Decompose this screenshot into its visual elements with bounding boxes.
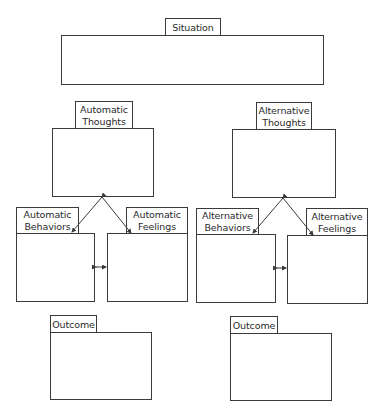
- automatic-outcome-label: Outcome: [50, 315, 97, 333]
- automatic-feelings-box[interactable]: [107, 233, 188, 302]
- alternative-thoughts-label: Alternative Thoughts: [256, 102, 312, 130]
- automatic-behaviors-line2: Behaviors: [24, 221, 70, 233]
- situation-label: Situation: [165, 18, 221, 36]
- automatic-feelings-line1: Automatic: [133, 209, 181, 221]
- automatic-branch-arrows: [72, 197, 131, 233]
- alternative-branch-arrows: [253, 198, 313, 235]
- alternative-outcome-box[interactable]: [230, 333, 332, 401]
- alternative-feelings-box[interactable]: [287, 235, 368, 304]
- automatic-thoughts-line2: Thoughts: [82, 116, 126, 128]
- alternative-thoughts-line2: Thoughts: [262, 117, 306, 129]
- alternative-behaviors-line2: Behaviors: [204, 222, 250, 234]
- alternative-thoughts-line1: Alternative: [258, 105, 309, 117]
- alternative-behaviors-box[interactable]: [196, 234, 276, 303]
- automatic-feelings-line2: Feelings: [138, 221, 176, 233]
- automatic-feelings-label: Automatic Feelings: [126, 207, 188, 234]
- situation-label-text: Situation: [172, 22, 214, 34]
- automatic-behaviors-line1: Automatic: [24, 209, 72, 221]
- automatic-behaviors-label: Automatic Behaviors: [16, 207, 79, 234]
- situation-box[interactable]: [61, 35, 324, 85]
- alternative-outcome-label: Outcome: [230, 316, 278, 334]
- automatic-thoughts-line1: Automatic: [80, 104, 128, 116]
- alternative-behaviors-label: Alternative Behaviors: [196, 208, 259, 235]
- alternative-outcome-label-text: Outcome: [233, 320, 276, 332]
- alternative-feelings-line2: Feelings: [318, 223, 356, 235]
- automatic-thoughts-box[interactable]: [52, 128, 154, 197]
- alternative-feelings-line1: Alternative: [311, 211, 362, 223]
- alternative-thoughts-box[interactable]: [232, 129, 336, 198]
- alternative-feelings-label: Alternative Feelings: [306, 208, 368, 236]
- automatic-outcome-box[interactable]: [50, 332, 152, 400]
- automatic-outcome-label-text: Outcome: [52, 319, 95, 331]
- alternative-behaviors-line1: Alternative: [202, 210, 253, 222]
- automatic-behaviors-box[interactable]: [16, 233, 95, 302]
- automatic-thoughts-label: Automatic Thoughts: [75, 101, 133, 129]
